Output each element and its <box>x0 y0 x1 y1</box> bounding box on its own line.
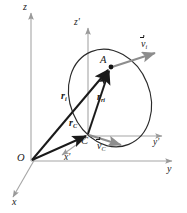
diagram-svg <box>0 0 187 213</box>
label-axis-y: y <box>167 164 171 174</box>
label-vector-v-i: vi <box>141 39 147 49</box>
label-axis-z: z <box>23 2 27 12</box>
label-vector-r-i: ri <box>61 91 67 101</box>
label-axis-x: x <box>12 197 16 207</box>
label-point-C: C <box>81 136 88 147</box>
point-A-marker <box>109 65 114 70</box>
vector-r-C <box>32 136 86 160</box>
vector-v-i <box>112 53 155 67</box>
label-axis-z-prime: z' <box>74 18 80 28</box>
label-vector-r-C: rC <box>69 118 77 128</box>
figure-canvas: z y x O z' y' x' A C ri rri rC vi vC <box>0 0 187 213</box>
global-axes <box>13 13 172 197</box>
label-axis-y-prime: y' <box>153 138 159 148</box>
label-axis-x-prime: x' <box>64 153 70 163</box>
label-point-O: O <box>17 153 25 164</box>
label-vector-v-C: vC <box>97 141 106 151</box>
label-vector-r-ri: rri <box>97 92 105 102</box>
label-point-A: A <box>100 55 106 66</box>
